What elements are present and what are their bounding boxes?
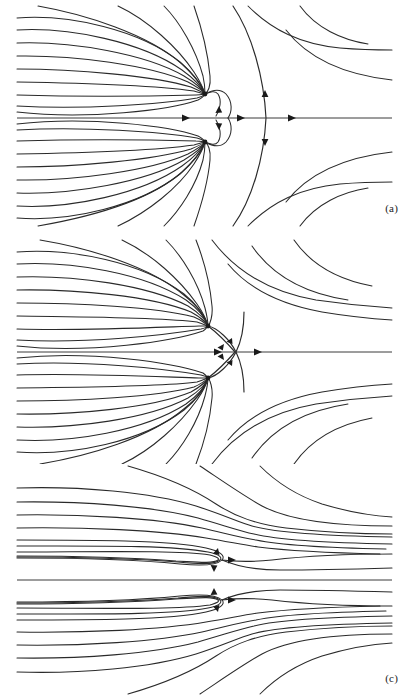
panel-a-streamlines-upper [17,17,205,115]
panel-a-far-field-upper [248,6,392,80]
figure-container: (a) [0,0,410,698]
panel-a-label: (a) [385,202,398,214]
panel-b-plot [0,232,410,464]
panel-b-streamlines-upper [17,251,208,348]
panel-b-far-field-upper [212,240,392,320]
panel-b [0,232,410,464]
panel-b-streamlines-lower [17,356,208,453]
panel-c-label: (c) [385,672,398,684]
panel-a-far-field-lower [248,152,392,226]
panel-a: (a) [0,0,410,232]
panel-c-streamlines-lower [17,606,392,672]
panel-a-node-outflow-lower [205,118,231,146]
panel-c-streamlines-lower-bottom [128,626,392,694]
panel-a-streamlines-lower [17,121,205,219]
panel-c: (c) [0,464,410,698]
panel-c-loop-outflow-lower [222,590,392,606]
panel-c-plot [0,464,410,698]
panel-b-far-field-lower [212,384,392,464]
panel-c-loop-outflow-upper [222,554,392,570]
panel-a-node-outflow-upper [205,90,231,118]
panel-a-streamlines-lower-outer [38,142,210,226]
panel-a-plot [0,0,410,232]
panel-c-loop-upper [17,540,223,565]
panel-c-streamlines-upper-top [128,466,392,534]
panel-c-streamlines-upper [17,488,392,554]
panel-c-loop-lower [17,595,223,620]
